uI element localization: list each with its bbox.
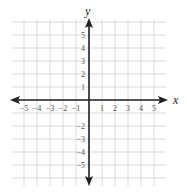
y-axis-label: y <box>84 4 91 18</box>
x-tick-label: 3 <box>126 104 130 113</box>
y-tick-label: 5 <box>81 31 85 40</box>
x-tick-label: 5 <box>152 104 156 113</box>
y-tick-label: −4 <box>76 148 85 157</box>
x-tick-label: −1 <box>72 104 81 113</box>
x-tick-label: −3 <box>46 104 55 113</box>
y-tick-label: −5 <box>76 161 85 170</box>
x-tick-labels: −5−4−3−2−112345 <box>20 104 156 113</box>
y-tick-label: 1 <box>81 83 85 92</box>
x-axis-label: x <box>172 93 179 107</box>
x-tick-label: 2 <box>113 104 117 113</box>
y-tick-label: 2 <box>81 70 85 79</box>
coordinate-plane: x y −5−4−3−2−112345 54321−2−3−4−5 <box>0 0 187 192</box>
y-tick-label: 3 <box>81 57 85 66</box>
x-tick-label: 4 <box>139 104 143 113</box>
x-tick-label: −2 <box>59 104 68 113</box>
y-tick-label: −3 <box>76 135 85 144</box>
y-axis <box>85 18 93 186</box>
y-tick-label: 4 <box>81 44 85 53</box>
x-tick-label: −5 <box>20 104 29 113</box>
x-tick-label: −4 <box>33 104 42 113</box>
x-tick-label: 1 <box>100 104 104 113</box>
y-tick-label: −2 <box>76 122 85 131</box>
